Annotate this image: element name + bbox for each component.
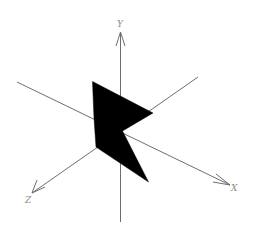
z-axis-label: Z (24, 195, 32, 205)
x-axis: X (17, 82, 238, 193)
3d-axes-diagram: X Z Y (0, 0, 253, 232)
x-axis-label: X (230, 183, 238, 193)
y-axis-label: Y (117, 19, 124, 29)
x-arrowhead-icon (213, 174, 230, 185)
black-polygon-shape (93, 82, 154, 183)
